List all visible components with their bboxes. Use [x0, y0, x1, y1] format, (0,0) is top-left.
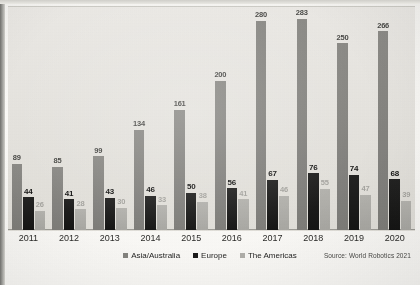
bar-value-label: 43 — [101, 188, 120, 196]
bar-2015-the-americas — [197, 202, 208, 230]
legend-item-asia-australia[interactable]: Asia/Australia — [123, 251, 180, 260]
page-top-edge — [0, 0, 420, 4]
bar-value-label: 26 — [31, 201, 50, 209]
bar-value-label: 161 — [170, 100, 189, 108]
bar-2020-asia-australia — [378, 31, 389, 230]
bar-2011-asia-australia — [12, 164, 23, 230]
bar-2012-the-americas — [75, 209, 86, 230]
bar-value-label: 39 — [397, 191, 416, 199]
bar-value-label: 46 — [141, 186, 160, 194]
bar-value-label: 280 — [252, 11, 271, 19]
bar-value-label: 250 — [333, 34, 352, 42]
bar-value-label: 89 — [8, 154, 27, 162]
bar-value-label: 30 — [112, 198, 131, 206]
bar-value-label: 55 — [316, 179, 335, 187]
bar-2014-the-americas — [157, 205, 168, 230]
legend-item-the-americas[interactable]: The Americas — [240, 251, 297, 260]
bar-value-label: 41 — [60, 190, 79, 198]
bar-2012-asia-australia — [52, 167, 63, 230]
bar-2017-asia-australia — [256, 21, 267, 230]
bar-2020-europe — [389, 179, 400, 230]
legend-swatch-the-americas — [240, 253, 245, 258]
legend-label-asia-australia: Asia/Australia — [131, 251, 180, 260]
x-tick-2015: 2015 — [171, 233, 212, 243]
source-note: Source: World Robotics 2021 — [324, 252, 411, 259]
bar-value-label: 38 — [193, 192, 212, 200]
legend-swatch-europe — [193, 253, 198, 258]
bar-2020-the-americas — [401, 201, 412, 230]
x-tick-2016: 2016 — [212, 233, 253, 243]
legend-swatch-asia-australia — [123, 253, 128, 258]
bar-value-label: 74 — [345, 165, 364, 173]
bar-2018-the-americas — [320, 189, 331, 230]
bar-2019-asia-australia — [337, 43, 348, 230]
bar-value-label: 134 — [130, 120, 149, 128]
bar-value-label: 200 — [211, 71, 230, 79]
x-tick-2017: 2017 — [252, 233, 293, 243]
x-tick-2011: 2011 — [8, 233, 49, 243]
x-tick-2012: 2012 — [49, 233, 90, 243]
bar-2015-asia-australia — [174, 110, 185, 230]
bar-value-label: 44 — [19, 188, 38, 196]
bar-value-label: 68 — [385, 170, 404, 178]
bar-2016-asia-australia — [215, 81, 226, 230]
x-tick-2019: 2019 — [334, 233, 375, 243]
bar-value-label: 85 — [48, 157, 67, 165]
legend-item-europe[interactable]: Europe — [193, 251, 227, 260]
bar-value-label: 99 — [89, 147, 108, 155]
x-tick-2013: 2013 — [89, 233, 130, 243]
bar-value-label: 28 — [71, 200, 90, 208]
bar-value-label: 46 — [275, 186, 294, 194]
x-tick-2018: 2018 — [293, 233, 334, 243]
bar-value-label: 33 — [153, 196, 172, 204]
x-tick-2020: 2020 — [374, 233, 415, 243]
bar-2013-the-americas — [116, 208, 127, 230]
legend-label-europe: Europe — [201, 251, 227, 260]
bar-value-label: 56 — [223, 179, 242, 187]
bar-2019-the-americas — [360, 195, 371, 230]
bar-value-label: 47 — [356, 185, 375, 193]
legend-label-the-americas: The Americas — [248, 251, 297, 260]
bar-2018-asia-australia — [297, 19, 308, 230]
bar-value-label: 266 — [374, 22, 393, 30]
bar-value-label: 283 — [293, 9, 312, 17]
bar-2016-the-americas — [238, 199, 249, 230]
chart-canvas: 8944268541289943301344633161503820056412… — [0, 0, 420, 285]
bar-value-label: 76 — [304, 164, 323, 172]
bar-2017-the-americas — [279, 196, 290, 230]
x-tick-2014: 2014 — [130, 233, 171, 243]
bar-2011-the-americas — [35, 211, 46, 230]
bar-value-label: 50 — [182, 183, 201, 191]
bar-value-label: 67 — [263, 170, 282, 178]
bar-value-label: 41 — [234, 190, 253, 198]
page-left-edge — [0, 0, 5, 285]
bar-2014-asia-australia — [134, 130, 145, 230]
bar-2019-europe — [349, 175, 360, 230]
